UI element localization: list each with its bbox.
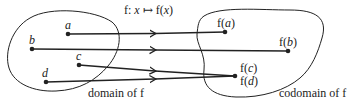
arrow-b-to-fb: [32, 49, 155, 50]
label-c: c: [76, 49, 82, 63]
point-a: [66, 32, 71, 37]
domain-points: [30, 32, 82, 85]
label-fc: f(c): [240, 61, 257, 75]
codomain-set-boundary: [197, 9, 324, 97]
arrow-c-to-fc: [79, 65, 155, 71]
point-fc-fd: [233, 74, 238, 79]
point-d: [44, 80, 49, 85]
label-fb: f(b): [279, 35, 297, 49]
maps-to-arrow-icon: ↦: [143, 3, 153, 17]
label-a: a: [65, 18, 71, 32]
label-fa: f(a): [217, 16, 235, 30]
point-c: [77, 63, 82, 68]
domain-caption: domain of f: [88, 86, 144, 100]
function-mapping-diagram: f: x ↦ f(x) a b c d f(a) f(b) f(c) f(d) …: [0, 0, 355, 106]
domain-set-boundary: [8, 11, 120, 91]
point-fb: [286, 49, 291, 54]
point-fa: [223, 30, 228, 35]
point-b: [30, 47, 35, 52]
label-b: b: [29, 33, 35, 47]
label-fd: f(d): [240, 74, 258, 88]
function-notation-title: f: x ↦ f(x): [124, 3, 173, 17]
arrow-d-to-fd: [46, 79, 155, 82]
codomain-caption: codomain of f: [279, 86, 346, 100]
arrow-a-to-fa: [68, 34, 155, 35]
label-d: d: [42, 66, 49, 80]
